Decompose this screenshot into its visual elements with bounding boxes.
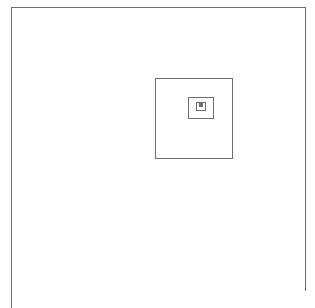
nested-rectangles-figure: [0, 0, 315, 308]
figure-canvas: [0, 0, 315, 308]
figure-background: [0, 0, 315, 308]
